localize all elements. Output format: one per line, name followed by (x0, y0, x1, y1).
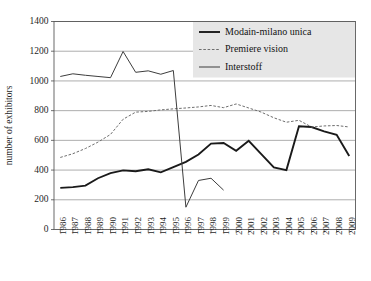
x-tick-label: 1998 (208, 217, 218, 236)
x-tick-label: 1993 (146, 217, 156, 236)
x-tick-label: 1989 (95, 217, 105, 236)
x-axis-group: 1986198719881989199019911992199319941995… (58, 217, 357, 236)
x-tick-label: 1990 (108, 217, 118, 236)
x-tick-label: 1997 (196, 217, 206, 236)
y-tick-label: 1400 (30, 16, 49, 26)
y-tick-label: 200 (34, 194, 49, 204)
x-tick-label: 1992 (133, 217, 143, 235)
x-tick-label: 1996 (183, 217, 193, 236)
x-tick-label: 2005 (296, 217, 306, 236)
x-tick-label: 2006 (309, 217, 319, 236)
y-tick-label: 600 (34, 135, 49, 145)
y-tick-label: 1200 (30, 46, 49, 56)
x-tick-label: 2001 (246, 217, 256, 235)
line-chart: 0200400600800100012001400 19861987198819… (0, 0, 371, 281)
series-line-0 (60, 126, 349, 188)
x-tick-label: 2009 (347, 217, 357, 236)
x-tick-label: 2002 (259, 217, 269, 235)
x-tick-label: 2004 (284, 217, 294, 236)
y-tick-label: 400 (34, 165, 49, 175)
y-tick-label: 800 (34, 105, 49, 115)
legend: Modain-milano unicaPremiere visionInters… (193, 22, 355, 78)
y-axis-title: number of exhibitors (4, 85, 14, 165)
x-tick-label: 1986 (58, 217, 68, 236)
chart-figure: 0200400600800100012001400 19861987198819… (0, 0, 371, 281)
y-axis-group: 0200400600800100012001400 (30, 16, 55, 234)
x-tick-label: 1987 (70, 217, 80, 236)
x-tick-label: 1991 (120, 217, 130, 235)
y-tick-label: 0 (44, 224, 49, 234)
x-tick-label: 2008 (334, 217, 344, 236)
legend-label-0: Modain-milano unica (225, 26, 312, 37)
y-tick-label: 1000 (30, 76, 49, 86)
x-tick-label: 1999 (221, 217, 231, 236)
legend-label-2: Interstoff (225, 61, 263, 72)
legend-label-1: Premiere vision (225, 43, 288, 54)
x-tick-label: 1995 (171, 217, 181, 236)
x-tick-label: 2000 (234, 217, 244, 236)
x-tick-label: 1988 (83, 217, 93, 236)
x-tick-label: 2007 (321, 217, 331, 236)
x-tick-label: 2003 (271, 217, 281, 236)
x-tick-label: 1994 (158, 217, 168, 236)
